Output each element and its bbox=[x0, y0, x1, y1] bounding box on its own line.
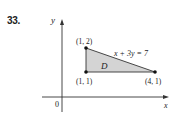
x-axis-label: x bbox=[163, 101, 168, 110]
vertex-1-1 bbox=[84, 70, 88, 74]
y-axis-label: y bbox=[50, 15, 55, 25]
vertex-4-1 bbox=[153, 70, 157, 74]
origin-label: 0 bbox=[55, 100, 59, 109]
vertex-label-1-2: (1, 2) bbox=[76, 37, 93, 46]
y-axis-arrow-icon bbox=[60, 19, 64, 25]
region-label: D bbox=[100, 61, 108, 71]
vertex-1-2 bbox=[84, 46, 88, 50]
line-equation-label: x + 3y = 7 bbox=[113, 49, 149, 58]
x-axis-arrow-icon bbox=[163, 95, 169, 99]
vertex-label-4-1: (4, 1) bbox=[145, 77, 162, 86]
vertex-label-1-1: (1, 1) bbox=[76, 77, 93, 86]
region-diagram: y 0 x (1, 2) (1, 1) (4, 1) x + 3y = 7 D bbox=[0, 0, 177, 121]
